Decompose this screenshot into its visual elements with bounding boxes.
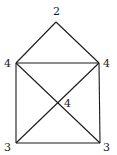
graph-diagram: 2 4 4 4 3 3 xyxy=(0,0,117,155)
edge-apex-top-right xyxy=(56,22,99,63)
label-bottom-left: 3 xyxy=(4,141,11,154)
label-top-right: 4 xyxy=(103,57,110,70)
vertex-labels: 2 4 4 4 3 3 xyxy=(4,5,110,154)
edge-top-right-bottom-right xyxy=(99,63,100,143)
label-apex: 2 xyxy=(53,5,60,18)
label-top-left: 4 xyxy=(4,57,11,70)
label-center: 4 xyxy=(64,97,71,110)
edges xyxy=(16,22,100,143)
label-bottom-right: 3 xyxy=(103,141,110,154)
edge-apex-top-left xyxy=(16,22,56,63)
